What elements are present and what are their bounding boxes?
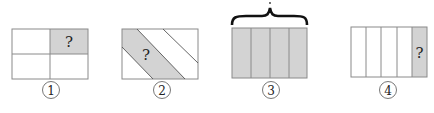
brace-mark bbox=[269, 2, 271, 4]
figure-1: ? 1 bbox=[12, 29, 88, 99]
figure-2-question-mark: ? bbox=[142, 46, 150, 64]
fraction-figures: ? 1 ? 2 3 ? 4 bbox=[0, 0, 434, 113]
figure-4: ? 4 bbox=[351, 27, 427, 99]
shaded-band bbox=[122, 29, 185, 79]
figure-2-number: 2 bbox=[158, 84, 166, 98]
figure-1-question-mark: ? bbox=[65, 33, 73, 51]
figure-2: ? 2 bbox=[122, 29, 198, 99]
figure-4-question-mark: ? bbox=[415, 44, 423, 62]
figure-1-number: 1 bbox=[47, 84, 55, 98]
figure-3-number: 3 bbox=[267, 84, 275, 98]
figure-3: 3 bbox=[232, 2, 307, 98]
figure-4-number: 4 bbox=[384, 84, 392, 98]
curly-brace-icon bbox=[232, 8, 307, 25]
